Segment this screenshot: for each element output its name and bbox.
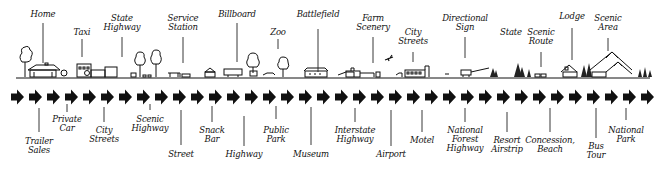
flow-arrow-icon bbox=[407, 90, 420, 105]
flow-arrow-icon bbox=[371, 90, 384, 105]
top-label-state: State bbox=[500, 28, 522, 37]
flow-arrow-icon bbox=[389, 90, 402, 105]
bottom-label-trailer-sales: Trailer Sales bbox=[25, 137, 53, 155]
bottom-label-national-park: National Park bbox=[608, 126, 643, 144]
bottom-label-public-park: Public Park bbox=[263, 126, 289, 144]
flow-arrow-icon bbox=[263, 90, 276, 105]
top-label-farm-scenery: Farm Scenery bbox=[356, 14, 390, 32]
top-label-city-streets: City Streets bbox=[398, 28, 428, 46]
top-label-battlefield: Battlefield bbox=[297, 10, 340, 19]
top-label-billboard: Billboard bbox=[218, 10, 256, 19]
flow-arrow-icon bbox=[155, 90, 168, 105]
top-label-taxi: Taxi bbox=[74, 28, 91, 37]
bottom-label-resort-airstrip: Resort Airstrip bbox=[491, 136, 522, 154]
flow-arrow-icon bbox=[515, 90, 528, 105]
flow-arrow-icon bbox=[299, 90, 312, 105]
bottom-label-bus-tour: Bus Tour bbox=[587, 142, 606, 160]
flow-arrow-icon bbox=[191, 90, 204, 105]
top-label-scenic-route: Scenic Route bbox=[527, 28, 554, 46]
flow-arrow-icon bbox=[137, 90, 150, 105]
bottom-label-museum: Museum bbox=[293, 150, 329, 159]
top-label-zoo: Zoo bbox=[270, 28, 286, 37]
flow-arrow-icon bbox=[227, 90, 240, 105]
top-label-state-highway: State Highway bbox=[104, 14, 141, 32]
bottom-label-city-streets: City Streets bbox=[89, 126, 119, 144]
flow-arrow-icon bbox=[443, 90, 456, 105]
flow-arrow-icon bbox=[497, 90, 510, 105]
top-label-scenic-area: Scenic Area bbox=[594, 14, 621, 32]
bottom-label-highway: Highway bbox=[226, 150, 263, 159]
flow-arrow-icon bbox=[335, 90, 348, 105]
bottom-label-airport: Airport bbox=[376, 150, 406, 159]
flow-arrow-icon bbox=[479, 90, 492, 105]
top-label-lodge: Lodge bbox=[559, 12, 585, 21]
flow-arrow-icon bbox=[533, 90, 546, 105]
flow-arrow-icon bbox=[173, 90, 186, 105]
flow-arrow-icon bbox=[587, 90, 600, 105]
flow-arrow-icon bbox=[209, 90, 222, 105]
bottom-label-interstate-highway: Interstate Highway bbox=[335, 126, 376, 144]
house-icon bbox=[28, 63, 60, 77]
flow-arrow-icon bbox=[605, 90, 618, 105]
flow-arrow-icon bbox=[353, 90, 366, 105]
flow-arrow-icon bbox=[65, 90, 78, 105]
flow-arrow-icon bbox=[47, 90, 60, 105]
flow-arrow-icon bbox=[317, 90, 330, 105]
bottom-label-scenic-highway: Scenic Highway bbox=[132, 115, 169, 133]
bottom-label-street: Street bbox=[168, 150, 194, 159]
top-label-home: Home bbox=[31, 10, 56, 19]
roadside-sequence-diagram: Home Taxi State Highway Service Station … bbox=[0, 0, 672, 174]
bottom-label-national-forest-highway: National Forest Highway bbox=[447, 126, 484, 153]
flow-arrow-icon bbox=[83, 90, 96, 105]
flow-arrow-icon bbox=[11, 90, 24, 105]
flow-arrow-icon bbox=[623, 90, 636, 105]
bottom-label-motel: Motel bbox=[410, 136, 434, 145]
top-label-directional-sign: Directional Sign bbox=[442, 14, 488, 32]
flow-arrow-icon bbox=[119, 90, 132, 105]
flow-arrow-icon bbox=[29, 90, 42, 105]
bottom-label-concession-beach: Concession, Beach bbox=[525, 136, 574, 154]
flow-arrow-icon bbox=[551, 90, 564, 105]
flow-arrow-icon bbox=[101, 90, 114, 105]
flow-arrow-icon bbox=[245, 90, 258, 105]
bottom-label-snack-bar: Snack Bar bbox=[199, 126, 224, 144]
flow-arrow-icon bbox=[425, 90, 438, 105]
bottom-label-private-car: Private Car bbox=[52, 115, 81, 133]
top-label-service-station: Service Station bbox=[168, 14, 199, 32]
flow-arrow-icon bbox=[641, 90, 654, 105]
flow-arrow-icon bbox=[569, 90, 582, 105]
flow-arrow-icon bbox=[461, 90, 474, 105]
flow-arrow-icon bbox=[281, 90, 294, 105]
